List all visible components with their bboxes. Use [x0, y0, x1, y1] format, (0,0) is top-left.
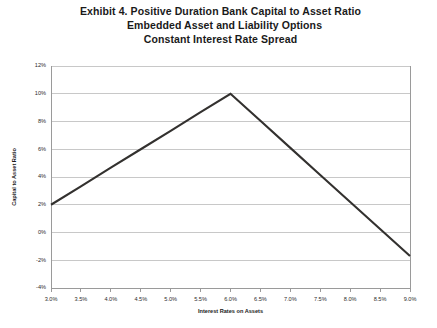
y-tick-label: 0% — [38, 229, 46, 235]
x-tick-label: 5.5% — [194, 296, 207, 302]
y-tick-label: 4% — [38, 173, 46, 179]
x-tick-label: 5.0% — [164, 296, 177, 302]
x-axis-title: Interest Rates on Assets — [198, 308, 263, 314]
x-tick-label: 6.5% — [254, 296, 267, 302]
x-tick-label: 4.0% — [104, 296, 117, 302]
y-tick-label: 6% — [38, 146, 46, 152]
y-tick-label: -2% — [36, 257, 46, 263]
x-tick-label: 8.5% — [374, 296, 387, 302]
chart-title-line-1: Exhibit 4. Positive Duration Bank Capita… — [0, 5, 437, 19]
capital-to-asset-ratio-line — [51, 94, 410, 256]
chart-title-block: Exhibit 4. Positive Duration Bank Capita… — [0, 0, 437, 47]
chart-title-line-2: Embedded Asset and Liability Options — [0, 19, 437, 33]
x-tick-label: 3.0% — [45, 296, 58, 302]
gridlines-group — [51, 66, 410, 288]
x-axis-tick-marks — [51, 288, 410, 292]
chart-area: 12%10%8%6%4%2%0%-2%-4% 3.0%3.5%4.0%4.5%5… — [0, 58, 437, 328]
chart-title-line-3: Constant Interest Rate Spread — [0, 33, 437, 47]
y-tick-label: 10% — [35, 90, 46, 96]
y-axis-title: Capital to Asset Ratio — [11, 148, 17, 206]
x-tick-label: 4.5% — [134, 296, 147, 302]
x-tick-label: 8.0% — [344, 296, 357, 302]
x-tick-label: 6.0% — [224, 296, 237, 302]
y-tick-label: 12% — [35, 62, 46, 68]
y-axis-tick-labels: 12%10%8%6%4%2%0%-2%-4% — [35, 62, 46, 290]
y-tick-label: 2% — [38, 201, 46, 207]
y-tick-label: -4% — [36, 284, 46, 290]
x-tick-label: 3.5% — [75, 296, 88, 302]
y-tick-label: 8% — [38, 118, 46, 124]
line-chart: 12%10%8%6%4%2%0%-2%-4% 3.0%3.5%4.0%4.5%5… — [0, 58, 437, 328]
x-axis-tick-labels: 3.0%3.5%4.0%4.5%5.0%5.5%6.0%6.5%7.0%7.5%… — [45, 296, 417, 302]
x-tick-label: 9.0% — [404, 296, 417, 302]
x-tick-label: 7.5% — [314, 296, 327, 302]
x-tick-label: 7.0% — [284, 296, 297, 302]
